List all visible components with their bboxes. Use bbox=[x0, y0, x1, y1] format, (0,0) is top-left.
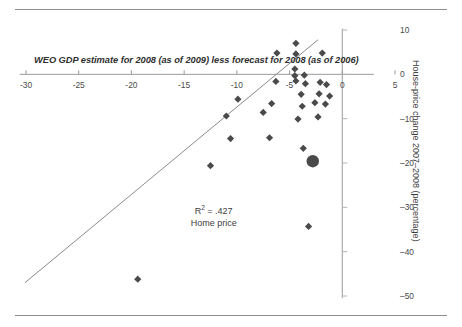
data-point[interactable] bbox=[305, 223, 312, 230]
data-point[interactable] bbox=[260, 109, 267, 116]
data-point-highlighted[interactable] bbox=[307, 155, 319, 167]
data-point[interactable] bbox=[268, 100, 275, 107]
y-tick-label: 10 bbox=[400, 25, 409, 35]
data-point[interactable] bbox=[207, 162, 214, 169]
y-tick-label: –30 bbox=[400, 202, 414, 212]
y-tick-label: –10 bbox=[400, 114, 414, 124]
data-point[interactable] bbox=[294, 116, 301, 123]
data-point[interactable] bbox=[291, 72, 298, 79]
y-tick-label: –50 bbox=[400, 291, 414, 301]
chart-annotation: R2 = .427 bbox=[195, 204, 233, 216]
data-point[interactable] bbox=[315, 90, 322, 97]
chart-annotation: Home price bbox=[191, 218, 237, 228]
x-tick-label: -5 bbox=[286, 80, 293, 90]
data-point[interactable] bbox=[311, 99, 318, 106]
data-point[interactable] bbox=[292, 40, 299, 47]
data-point[interactable] bbox=[317, 79, 324, 86]
x-tick-label: -15 bbox=[178, 80, 190, 90]
x-tick-label: -25 bbox=[73, 80, 85, 90]
y-tick-label: 0 bbox=[400, 69, 405, 79]
data-point[interactable] bbox=[134, 276, 141, 283]
data-point[interactable] bbox=[326, 92, 333, 99]
x-axis-title: WEO GDP estimate for 2008 (as of 2009) l… bbox=[34, 55, 359, 65]
data-point[interactable] bbox=[272, 78, 279, 85]
x-tick-label: -30 bbox=[20, 80, 32, 90]
data-point[interactable] bbox=[300, 145, 307, 152]
data-point[interactable] bbox=[234, 96, 241, 103]
data-point[interactable] bbox=[322, 100, 329, 107]
data-point[interactable] bbox=[227, 135, 234, 142]
data-point[interactable] bbox=[299, 103, 306, 110]
data-point[interactable] bbox=[302, 80, 309, 87]
chart-figure: WEO GDP estimate for 2008 (as of 2009) l… bbox=[0, 0, 462, 327]
y-tick-label: –40 bbox=[400, 247, 414, 257]
data-point[interactable] bbox=[291, 65, 298, 72]
data-point[interactable] bbox=[314, 113, 321, 120]
x-tick-label: -20 bbox=[125, 80, 137, 90]
data-point[interactable] bbox=[301, 72, 308, 79]
trend-line bbox=[25, 40, 318, 283]
x-tick-label: -10 bbox=[231, 80, 243, 90]
data-point[interactable] bbox=[323, 81, 330, 88]
data-point[interactable] bbox=[298, 91, 305, 98]
scatter-plot bbox=[0, 0, 462, 327]
y-tick-label: –20 bbox=[400, 158, 414, 168]
data-point[interactable] bbox=[266, 134, 273, 141]
data-point[interactable] bbox=[292, 77, 299, 84]
x-tick-label: 0 bbox=[340, 80, 345, 90]
x-tick-label: 5 bbox=[393, 80, 398, 90]
